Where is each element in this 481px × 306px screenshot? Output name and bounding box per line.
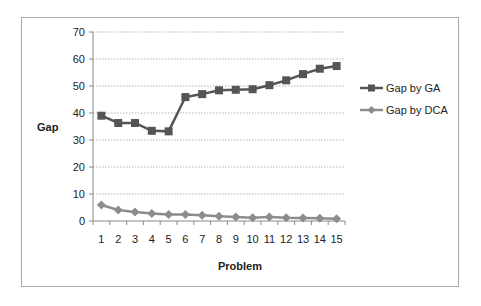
diamond-marker [164,210,173,219]
x-tick-label: 14 [314,233,326,245]
square-marker [165,127,173,135]
x-tick-label: 6 [182,233,188,245]
y-axis-title: Gap [37,121,59,133]
y-tick-label: 60 [73,53,85,65]
diamond-marker [215,212,224,221]
x-tick-label: 10 [246,233,258,245]
square-marker [215,86,223,94]
y-axis-ticks: 010203040506070 [73,26,85,227]
x-tick-label: 7 [199,233,205,245]
diamond-marker [265,212,274,221]
diamond-marker [97,201,106,210]
x-tick-label: 8 [216,233,222,245]
x-tick-label: 15 [330,233,342,245]
x-tick-label: 13 [297,233,309,245]
square-marker [232,86,240,94]
line-chart: 010203040506070 123456789101112131415 Ga… [0,0,481,306]
legend-label-ga: Gap by GA [386,82,441,94]
diamond-marker [231,212,240,221]
y-tick-label: 30 [73,134,85,146]
diamond-marker [147,209,156,218]
y-tick-label: 20 [73,161,85,173]
square-marker [198,90,206,98]
diamond-marker [198,211,207,220]
x-tick-label: 3 [132,233,138,245]
y-tick-label: 0 [79,215,85,227]
x-axis-title: Problem [218,260,262,272]
x-tick-label: 5 [166,233,172,245]
x-tick-label: 12 [280,233,292,245]
square-marker [97,112,105,120]
x-tick-label: 1 [98,233,104,245]
axes [89,32,345,225]
square-marker [148,127,156,135]
diamond-marker [181,210,190,219]
diamond-marker [332,214,341,223]
y-tick-label: 40 [73,107,85,119]
x-tick-label: 4 [149,233,155,245]
square-marker [333,62,341,70]
diamond-marker [131,208,140,217]
y-tick-label: 70 [73,26,85,38]
square-marker [316,65,324,73]
x-tick-label: 2 [115,233,121,245]
square-marker [181,93,189,101]
square-marker [265,81,273,89]
legend: Gap by GA Gap by DCA [360,82,448,116]
square-marker [299,70,307,78]
x-tick-label: 11 [264,233,275,245]
y-tick-label: 10 [73,188,85,200]
square-marker-icon [368,85,375,92]
square-marker [282,76,290,84]
y-tick-label: 50 [73,80,85,92]
diamond-marker-icon [368,106,376,114]
diamond-marker [114,205,123,214]
legend-label-dca: Gap by DCA [386,104,448,116]
x-axis-ticks: 123456789101112131415 [98,233,342,245]
square-marker [249,85,257,93]
gridlines [93,32,345,194]
legend-item-dca: Gap by DCA [360,104,448,116]
x-tick-label: 9 [233,233,239,245]
legend-item-ga: Gap by GA [360,82,441,94]
square-marker [131,119,139,127]
square-marker [114,119,122,127]
